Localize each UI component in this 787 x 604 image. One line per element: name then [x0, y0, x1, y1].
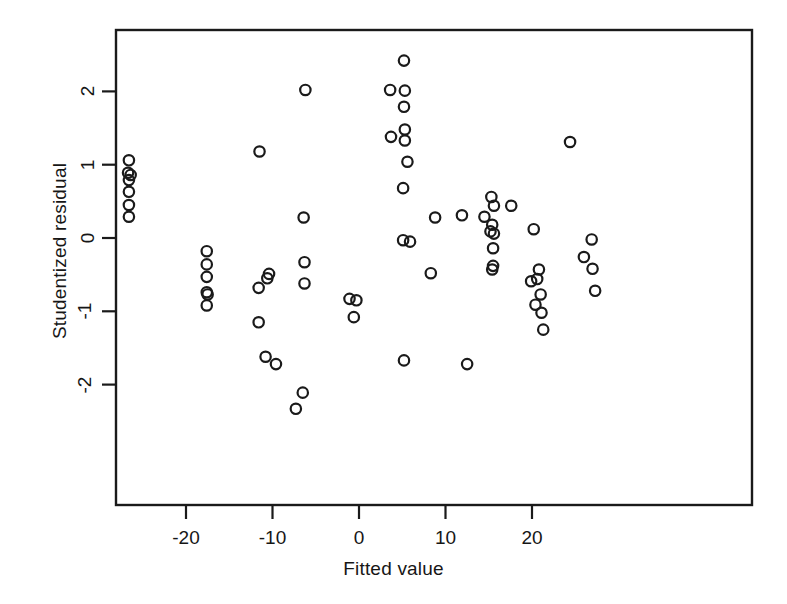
data-point: [488, 243, 498, 253]
data-point: [124, 200, 134, 210]
data-point: [587, 264, 597, 274]
data-point: [202, 246, 212, 256]
y-tick-label-text-0: -2: [75, 376, 97, 393]
data-point: [386, 132, 396, 142]
data-point: [590, 286, 600, 296]
data-point: [399, 355, 409, 365]
data-point: [426, 268, 436, 278]
data-point: [535, 289, 545, 299]
plot-canvas: [0, 0, 787, 604]
data-point-series: [123, 55, 601, 414]
data-point: [402, 157, 412, 167]
x-axis-label: Fitted value: [0, 558, 787, 580]
data-point: [385, 85, 395, 95]
data-point: [124, 155, 134, 165]
data-point: [299, 278, 309, 288]
data-point: [260, 352, 270, 362]
data-point: [300, 85, 310, 95]
data-point: [457, 210, 467, 220]
data-point: [399, 102, 409, 112]
data-point: [298, 387, 308, 397]
data-point: [349, 312, 359, 322]
x-tick-label-0: -20: [172, 527, 199, 549]
data-point: [202, 272, 212, 282]
data-point: [565, 137, 575, 147]
y-tick-label-text-4: 2: [78, 86, 100, 97]
data-point: [399, 55, 409, 65]
data-point: [400, 124, 410, 134]
data-point: [462, 359, 472, 369]
data-point: [398, 183, 408, 193]
data-point: [298, 212, 308, 222]
data-point: [529, 224, 539, 234]
data-point: [299, 257, 309, 267]
data-point: [351, 295, 361, 305]
x-tick-label-2: 0: [354, 527, 365, 549]
y-tick-label-2: 0: [0, 227, 94, 249]
data-point: [271, 359, 281, 369]
scatter-plot-figure: -20-1001020-2-1012 Fitted value Studenti…: [0, 0, 787, 604]
y-tick-label-text-1: -1: [75, 303, 97, 320]
x-axis-ticks: [186, 505, 532, 519]
data-point: [506, 201, 516, 211]
y-tick-label-0: -2: [0, 374, 94, 396]
data-point: [253, 283, 263, 293]
data-point: [124, 187, 134, 197]
x-tick-label-4: 20: [521, 527, 542, 549]
y-tick-label-text-2: 0: [78, 233, 100, 244]
data-point: [253, 317, 263, 327]
data-point: [202, 259, 212, 269]
x-tick-label-1: -10: [259, 527, 286, 549]
data-point: [586, 234, 596, 244]
y-tick-label-1: -1: [0, 300, 94, 322]
data-point: [291, 404, 301, 414]
data-point: [202, 300, 212, 310]
x-tick-label-3: 10: [435, 527, 456, 549]
data-point: [124, 212, 134, 222]
y-tick-label-4: 2: [0, 80, 94, 102]
data-point: [579, 252, 589, 262]
data-point: [536, 308, 546, 318]
y-axis-ticks: [102, 91, 116, 384]
data-point: [254, 146, 264, 156]
data-point: [430, 212, 440, 222]
y-tick-label-3: 1: [0, 154, 94, 176]
data-point: [538, 324, 548, 334]
data-point: [400, 135, 410, 145]
data-point: [400, 85, 410, 95]
y-tick-label-text-3: 1: [78, 159, 100, 170]
data-point: [405, 236, 415, 246]
